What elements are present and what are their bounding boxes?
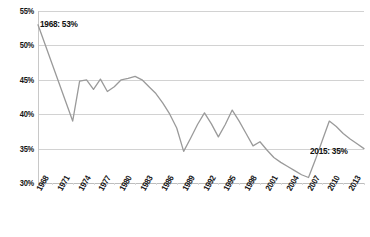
x-tick-label-2001: 2001 (264, 174, 279, 192)
x-tick-label-1980: 1980 (118, 174, 133, 192)
x-tick-minor (198, 183, 199, 185)
x-tick-minor (135, 183, 136, 185)
x-tick-label-1968: 1968 (35, 174, 50, 192)
line-chart: 55% 50% 45% 40% 35% 30% 1968197119741977… (0, 0, 370, 237)
x-tick-label-1971: 1971 (56, 174, 71, 192)
x-tick-minor (177, 183, 178, 185)
x-tick-minor (218, 183, 219, 185)
x-tick-label-1977: 1977 (97, 174, 112, 192)
x-tick-label-2013: 2013 (347, 174, 362, 192)
x-tick-label-1989: 1989 (181, 174, 196, 192)
x-tick-minor (260, 183, 261, 185)
x-tick-minor (156, 183, 157, 185)
x-tick-minor (343, 183, 344, 185)
x-tick-label-2007: 2007 (306, 174, 321, 192)
x-tick-minor (239, 183, 240, 185)
x-tick-label-1986: 1986 (160, 174, 175, 192)
x-tick-label-1995: 1995 (222, 174, 237, 192)
x-tick-label-1983: 1983 (139, 174, 154, 192)
x-tick-minor (364, 183, 365, 185)
x-axis-labels: 1968197119741977198019831986198919921995… (0, 0, 370, 237)
x-tick-minor (281, 183, 282, 185)
x-tick-label-2004: 2004 (285, 174, 300, 192)
x-tick-minor (302, 183, 303, 185)
x-tick-label-1998: 1998 (243, 174, 258, 192)
x-tick-minor (73, 183, 74, 185)
x-tick-label-1974: 1974 (77, 174, 92, 192)
x-tick-minor (114, 183, 115, 185)
x-tick-label-1992: 1992 (202, 174, 217, 192)
annotation-start-point: 1968: 53% (40, 19, 78, 29)
x-tick-minor (322, 183, 323, 185)
annotation-end-point: 2015: 35% (310, 146, 348, 156)
x-tick-label-2010: 2010 (326, 174, 341, 192)
x-tick-minor (94, 183, 95, 185)
x-tick-minor (52, 183, 53, 185)
